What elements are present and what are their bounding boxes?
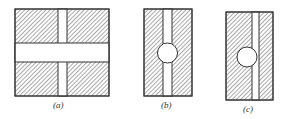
horizontal-band	[15, 43, 109, 62]
diagram-canvas	[0, 0, 283, 119]
circular-hole	[237, 47, 257, 67]
panel-c-label: (c)	[243, 104, 253, 114]
panel-a-figure	[15, 9, 109, 96]
panel-b-figure	[144, 9, 192, 96]
panel-c-figure	[226, 12, 273, 100]
panel-b-label: (b)	[161, 100, 172, 110]
panel-a-label: (a)	[53, 100, 64, 110]
